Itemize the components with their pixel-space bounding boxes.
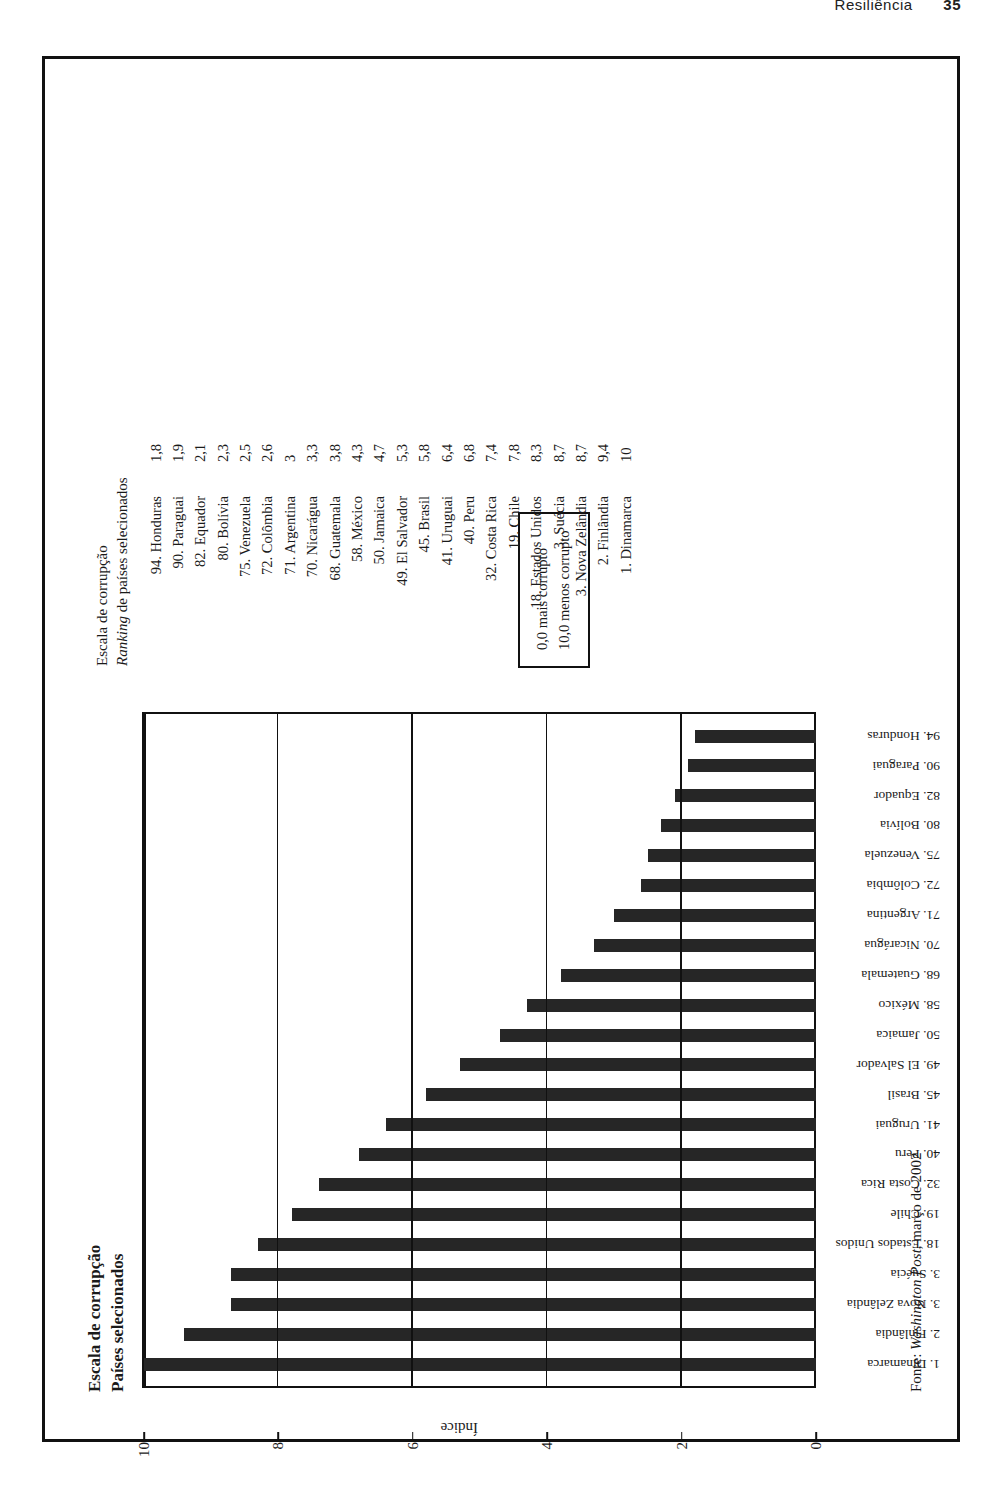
bar-slot	[144, 1259, 816, 1289]
bar-slot	[144, 930, 816, 960]
category-label: 58. México	[820, 998, 940, 1012]
gridline	[277, 712, 279, 1388]
bar	[500, 1029, 816, 1042]
page-running-header: Resiliência 35	[0, 0, 1001, 24]
bar-slot	[144, 1050, 816, 1080]
ranking-row: 49. El Salvador5,3	[395, 106, 417, 666]
category-label-slot: 71. Argentina	[820, 901, 940, 931]
bar	[359, 1148, 816, 1161]
bar-slot	[144, 1349, 816, 1379]
category-label: 49. El Salvador	[820, 1058, 940, 1072]
ranking-row: 75. Venezuela2,5	[238, 106, 260, 666]
category-label: 45. Brasil	[820, 1088, 940, 1102]
bar-slot	[144, 1170, 816, 1200]
bar	[688, 759, 816, 772]
ranking-row: 1. Dinamarca10	[619, 106, 641, 666]
ranking-value: 8,7	[574, 422, 589, 462]
bar	[386, 1118, 816, 1131]
gridline	[680, 712, 682, 1388]
bar	[258, 1238, 816, 1251]
category-label-slot: 49. El Salvador	[820, 1050, 940, 1080]
figure-content: Escala de corrupção Países selecionados …	[48, 62, 954, 1436]
category-label-slot: 94. Honduras	[820, 721, 940, 751]
ranking-panel: Escala de corrupção Ranking de países se…	[92, 106, 641, 666]
chart-title: Escala de corrupção Países selecionados	[84, 1245, 130, 1392]
ranking-value: 2,3	[216, 422, 231, 462]
source-publication: Washington Post	[908, 1249, 924, 1350]
category-label: 72. Colômbia	[820, 879, 940, 893]
ranking-country: 58. México	[350, 462, 365, 666]
ranking-row: 19. Chile7,8	[507, 106, 529, 666]
ranking-value: 7,8	[507, 422, 522, 462]
category-label: 80. Bolívia	[820, 819, 940, 833]
category-label-slot: 72. Colômbia	[820, 871, 940, 901]
bar	[460, 1058, 816, 1071]
ranking-value: 5,8	[417, 422, 432, 462]
ranking-row: 3. Suécia8,7	[552, 106, 574, 666]
value-axis-tick-mark	[278, 1432, 280, 1440]
ranking-row: 45. Brasil5,8	[417, 106, 439, 666]
bar	[144, 1358, 816, 1371]
bar-slot	[144, 781, 816, 811]
ranking-country: 3. Nova Zelândia	[574, 462, 589, 666]
value-axis-tick-label: 4	[539, 1442, 556, 1450]
category-label-slot: 82. Equador	[820, 781, 940, 811]
value-axis-tick-mark	[681, 1432, 683, 1440]
ranking-value: 9,4	[596, 422, 611, 462]
category-label: 90. Paraguai	[820, 759, 940, 773]
category-label-slot: 75. Venezuela	[820, 841, 940, 871]
ranking-value: 7,4	[484, 422, 499, 462]
bar	[675, 789, 816, 802]
bar-slot	[144, 1080, 816, 1110]
ranking-value: 8,7	[552, 422, 567, 462]
page-number: 35	[943, 0, 961, 13]
bar-slot	[144, 871, 816, 901]
bar	[231, 1298, 816, 1311]
ranking-row: 94. Honduras1,8	[149, 106, 171, 666]
ranking-country: 94. Honduras	[149, 462, 164, 666]
ranking-country: 80. Bolívia	[216, 462, 231, 666]
ranking-row: 41. Uruguai6,4	[440, 106, 462, 666]
bar	[319, 1178, 816, 1191]
bar-slot	[144, 841, 816, 871]
ranking-row: 32. Costa Rica7,4	[484, 106, 506, 666]
ranking-country: 70. Nicarágua	[305, 462, 320, 666]
ranking-country: 82. Equador	[193, 462, 208, 666]
value-axis-tick-label: 6	[404, 1442, 421, 1450]
value-axis-tick-mark	[815, 1432, 817, 1440]
gridline	[546, 712, 548, 1388]
ranking-country: 19. Chile	[507, 462, 522, 666]
value-axis-tick-label: 10	[136, 1442, 153, 1457]
ranking-row: 2. Finlândia9,4	[596, 106, 618, 666]
value-axis-tick-mark	[143, 1432, 145, 1440]
category-label-slot: 58. México	[820, 990, 940, 1020]
ranking-value: 10	[619, 422, 634, 462]
ranking-row: 58. México4,3	[350, 106, 372, 666]
ranking-value: 5,3	[395, 422, 410, 462]
ranking-value: 3,8	[328, 422, 343, 462]
ranking-country: 45. Brasil	[417, 462, 432, 666]
bar-slot	[144, 751, 816, 781]
running-head-group: Resiliência 35	[835, 0, 961, 13]
category-label: 75. Venezuela	[820, 849, 940, 863]
ranking-country: 18. Estados Unidos	[529, 462, 544, 666]
ranking-header-line1: Escala de corrupção	[92, 106, 112, 666]
ranking-row: 40. Peru6,8	[462, 106, 484, 666]
rotated-stage: Escala de corrupção Países selecionados …	[45, 59, 957, 1439]
category-label: 50. Jamaica	[820, 1028, 940, 1042]
bar-slot	[144, 1229, 816, 1259]
ranking-row: 18. Estados Unidos8,3	[529, 106, 551, 666]
ranking-country: 40. Peru	[462, 462, 477, 666]
ranking-rows: 94. Honduras1,890. Paraguai1,982. Equado…	[149, 106, 642, 666]
bar	[594, 939, 816, 952]
ranking-header-italic: Ranking	[114, 616, 130, 666]
ranking-row: 72. Colômbia2,6	[260, 106, 282, 666]
ranking-value: 2,6	[260, 422, 275, 462]
bar	[614, 909, 816, 922]
ranking-value: 2,1	[193, 422, 208, 462]
source-line: Fonte: Washington Post, março de 2002	[908, 1153, 925, 1392]
bar-slot	[144, 901, 816, 931]
source-prefix: Fonte:	[908, 1350, 924, 1392]
ranking-value: 4,7	[372, 422, 387, 462]
bar	[231, 1268, 816, 1281]
